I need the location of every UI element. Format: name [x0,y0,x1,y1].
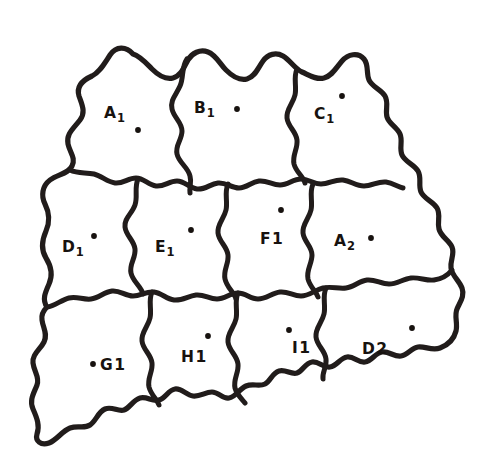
cell-label-d2: D2 [362,342,387,358]
cell-label-b1-index: 1 [207,106,215,120]
site-dot-d2 [409,325,415,331]
site-dot-g1 [90,361,96,367]
site-dot-b1 [234,106,240,112]
cell-diagram-canvas [0,0,493,469]
cell-label-d1: D1 [62,240,84,258]
cell-label-a1: A1 [104,106,125,124]
cell-label-g1: G1 [100,358,125,374]
site-dot-f1 [278,207,284,213]
site-dot-h1 [205,333,211,339]
cell-label-f1-letter: F [260,230,271,248]
cell-label-e1: E1 [155,240,175,258]
cell-label-g1-index: 1 [114,356,125,374]
cell-label-e1-letter: E [155,238,166,256]
cell-label-e1-index: 1 [167,245,175,259]
cell-label-d1-letter: D [62,238,75,256]
cell-label-i1: I1 [292,341,310,357]
site-dot-a1 [135,127,141,133]
cell-label-a1-letter: A [104,104,116,122]
cell-label-c1: C1 [314,107,335,125]
cell-label-g1-letter: G [100,356,113,374]
cell-label-a2-index: 2 [347,239,355,253]
cell-label-i1-index: 1 [299,339,310,357]
site-dot-i1 [286,327,292,333]
cell-label-b1-letter: B [194,99,206,117]
site-dot-c1 [339,93,345,99]
cell-label-a2-letter: A [334,232,346,250]
diagram-root: A1 B1 C1 D1 E1 F1 A2 G1 H1 I1 D2 [0,0,493,469]
cell-label-h1: H1 [181,350,207,366]
cell-label-b1: B1 [194,101,215,119]
outer-region-outline [32,48,463,444]
site-dot-a2 [368,235,374,241]
cell-label-f1-index: 1 [272,230,283,248]
cell-label-h1-index: 1 [195,348,206,366]
cell-label-d1-index: 1 [76,245,84,259]
cell-label-h1-letter: H [181,348,194,366]
cell-label-a2: A2 [334,234,355,252]
cell-label-d2-letter: D [362,340,375,358]
site-dot-e1 [188,227,194,233]
cell-label-c1-letter: C [314,105,326,123]
cell-label-f1: F1 [260,232,283,248]
cell-label-c1-index: 1 [326,112,334,126]
cell-label-a1-index: 1 [117,111,125,125]
cell-label-i1-letter: I [292,339,298,357]
site-dot-d1 [91,233,97,239]
cell-label-d2-index: 2 [376,340,387,358]
